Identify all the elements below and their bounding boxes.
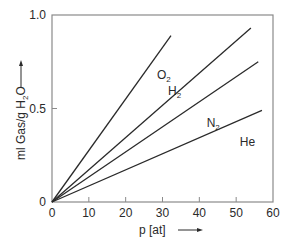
x-tick-label: 40 (193, 206, 207, 220)
y-tick-label: 0 (39, 195, 46, 209)
series-label-he: He (240, 135, 256, 149)
chart-canvas: 010203040506000.51.0O2H2N2Hep [at]ml Gas… (0, 0, 292, 248)
y-tick-label: 1.0 (29, 8, 46, 22)
series-line-o2 (52, 36, 171, 202)
gas-solubility-chart: 010203040506000.51.0O2H2N2Hep [at]ml Gas… (0, 0, 292, 248)
x-tick-label: 20 (119, 206, 133, 220)
series-line-n2 (52, 62, 258, 202)
series-line-h2 (52, 28, 251, 202)
y-axis-label: ml Gas/g H2O (14, 86, 30, 160)
x-tick-label: 30 (156, 206, 170, 220)
series-label-h2: H2 (168, 84, 182, 100)
series-line-he (52, 110, 262, 202)
x-axis-label: p [at] (139, 223, 166, 237)
x-tick-label: 50 (229, 206, 243, 220)
y-axis-label-group: ml Gas/g H2O (14, 86, 30, 160)
y-axis-arrowhead-icon (19, 60, 23, 66)
series-label-o2: O2 (157, 68, 171, 84)
x-tick-label: 0 (49, 206, 56, 220)
x-axis-arrowhead-icon (197, 228, 203, 232)
x-tick-label: 60 (266, 206, 280, 220)
plot-frame (52, 15, 273, 202)
y-tick-label: 0.5 (29, 102, 46, 116)
x-tick-label: 10 (82, 206, 96, 220)
